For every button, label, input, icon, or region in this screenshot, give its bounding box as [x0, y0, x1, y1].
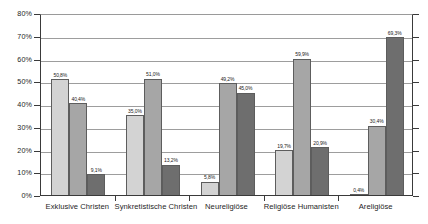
y-axis-label: 80% — [17, 10, 32, 17]
x-axis-category-label: Synkretistische Christen — [115, 203, 190, 211]
bar[interactable] — [126, 115, 144, 195]
bar-slot: 0,4% — [350, 13, 368, 195]
x-axis-category-label: Neureligiöse — [189, 203, 264, 211]
bar-value-label: 35,0% — [128, 109, 142, 114]
x-axis-category-label: Religiöse Humanisten — [264, 203, 339, 211]
bar-value-label: 51,0% — [146, 72, 160, 77]
bar-slot: 5,8% — [201, 13, 219, 195]
bar-value-label: 40,4% — [71, 97, 85, 102]
bar[interactable] — [350, 194, 368, 195]
bar-slot: 40,4% — [69, 13, 87, 195]
bar[interactable] — [293, 59, 311, 195]
x-axis-group-separator — [338, 196, 339, 201]
bar-slot: 13,2% — [162, 13, 180, 195]
y-axis-label: 70% — [17, 33, 32, 40]
bar-slot: 51,0% — [144, 13, 162, 195]
bar-group: 50,8%40,4%9,1% — [51, 13, 105, 195]
y-axis-tick-right — [413, 82, 419, 83]
plot-area: 50,8%40,4%9,1%35,0%51,0%13,2%5,8%49,2%45… — [40, 14, 413, 196]
bar-value-label: 19,7% — [277, 144, 291, 149]
bar-slot: 9,1% — [87, 13, 105, 195]
bar[interactable] — [87, 174, 105, 195]
bar[interactable] — [311, 147, 329, 195]
bar-group-bars: 19,7%59,9%20,9% — [275, 13, 329, 195]
x-axis-group-separator — [264, 196, 265, 201]
bar-slot: 45,0% — [237, 13, 255, 195]
bar[interactable] — [162, 165, 180, 195]
y-axis-label: 40% — [17, 101, 32, 108]
bar-group: 19,7%59,9%20,9% — [275, 13, 329, 195]
bar-slot: 20,9% — [311, 13, 329, 195]
bar-group: 5,8%49,2%45,0% — [201, 13, 255, 195]
bar-slot: 19,7% — [275, 13, 293, 195]
y-axis-tick-right — [413, 105, 419, 106]
y-axis-tick-right — [413, 173, 419, 174]
x-axis-category-label: Exklusive Christen — [40, 203, 115, 211]
x-axis-group-separator — [189, 196, 190, 201]
bar-slot: 30,4% — [368, 13, 386, 195]
bar[interactable] — [237, 93, 255, 195]
y-axis-tick-right — [413, 151, 419, 152]
bar-slot: 50,8% — [51, 13, 69, 195]
y-axis-label: 60% — [17, 56, 32, 63]
y-axis-tick-right — [413, 60, 419, 61]
y-axis-tick-right — [413, 128, 419, 129]
y-axis-tick-right — [413, 37, 419, 38]
y-axis-label: 50% — [17, 78, 32, 85]
bar-slot: 69,3% — [386, 13, 404, 195]
bar-value-label: 50,8% — [53, 73, 67, 78]
bar-slot: 59,9% — [293, 13, 311, 195]
bar-chart: 0%10%20%30%40%50%60%70%80% 50,8%40,4%9,1… — [0, 0, 428, 224]
bar-value-label: 69,3% — [388, 31, 402, 36]
bar-slot: 35,0% — [126, 13, 144, 195]
bar[interactable] — [144, 79, 162, 195]
bar-value-label: 0,4% — [353, 188, 364, 193]
bar-group-bars: 5,8%49,2%45,0% — [201, 13, 255, 195]
bar-value-label: 20,9% — [313, 141, 327, 146]
bar[interactable] — [69, 103, 87, 195]
bar[interactable] — [219, 83, 237, 195]
y-axis-label: 0% — [21, 192, 32, 199]
bar-value-label: 9,1% — [91, 168, 102, 173]
y-axis-tick — [34, 196, 40, 197]
bar-group-bars: 50,8%40,4%9,1% — [51, 13, 105, 195]
bar-value-label: 30,4% — [370, 119, 384, 124]
y-axis-label: 10% — [17, 169, 32, 176]
bar[interactable] — [51, 79, 69, 195]
bar[interactable] — [386, 37, 404, 195]
x-axis-category-label: Areligiöse — [338, 203, 413, 211]
bar-slot: 49,2% — [219, 13, 237, 195]
bar-group: 0,4%30,4%69,3% — [350, 13, 404, 195]
bar[interactable] — [201, 182, 219, 195]
bar-group: 35,0%51,0%13,2% — [126, 13, 180, 195]
y-axis-tick-right — [413, 14, 419, 15]
bar-value-label: 5,8% — [204, 175, 215, 180]
bar-group-bars: 35,0%51,0%13,2% — [126, 13, 180, 195]
bar-value-label: 59,9% — [295, 52, 309, 57]
y-axis-label: 20% — [17, 147, 32, 154]
bar-group-bars: 0,4%30,4%69,3% — [350, 13, 404, 195]
y-axis-tick-right — [413, 196, 419, 197]
bar[interactable] — [368, 126, 386, 195]
bar[interactable] — [275, 150, 293, 195]
x-axis-group-separator — [115, 196, 116, 201]
bar-value-label: 13,2% — [164, 158, 178, 163]
y-axis-label: 30% — [17, 124, 32, 131]
bar-value-label: 49,2% — [221, 77, 235, 82]
bar-value-label: 45,0% — [239, 86, 253, 91]
